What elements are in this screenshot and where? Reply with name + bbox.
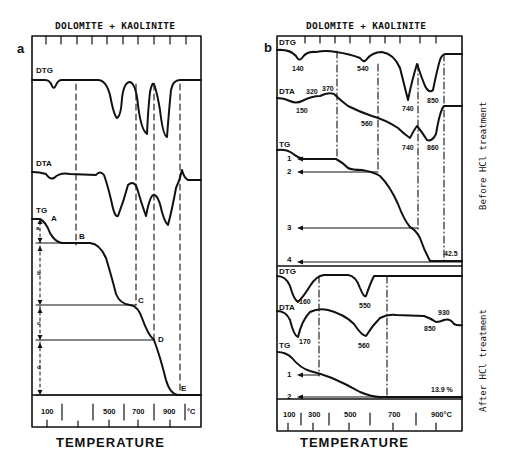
panel-b-before-dta-peak-320: 320 (306, 88, 318, 95)
panel-a-tg-reference-lines (36, 243, 201, 395)
panel-b-before-step-1: 1 (287, 155, 291, 163)
panel-b-after-value: 13.9 % (431, 386, 453, 393)
panel-a-tick-100: 100 (41, 407, 54, 416)
panel-a-xlabel: TEMPERATURE (56, 435, 165, 450)
panel-b-after-dta-peak-850: 850 (424, 325, 436, 332)
panel-b-before-dtg-peak-140: 140 (292, 65, 304, 72)
panel-b-before-step-2: 2 (287, 168, 291, 176)
panel-b-tick-900: 900°C (431, 410, 452, 419)
panel-b-before-dta-peak-150: 150 (296, 107, 308, 114)
panel-b-before-guides (337, 51, 444, 262)
panel-b-before-tg-curve (277, 150, 462, 261)
panel-b-after-step-1: 1 (287, 371, 291, 379)
panel-b-top-ticks (305, 36, 436, 43)
panel-b-before-step-3: 3 (287, 224, 291, 232)
panel-b-tick-300: 300 (308, 410, 321, 419)
panel-a-point-B: B (79, 233, 85, 241)
panel-b-letter: b (264, 40, 272, 55)
panel-b-after-dta-peak-930: 930 (438, 309, 450, 316)
panel-a-tick-unit: °C (187, 407, 195, 416)
panel-b-tick-500: 500 (344, 410, 357, 419)
panel-a-tg-label: TG (36, 207, 47, 215)
panel-b-after-dta-peak-560: 560 (358, 342, 370, 349)
panel-b-xlabel: TEMPERATURE (300, 435, 409, 450)
panel-a-dta-label: DTA (36, 160, 52, 168)
chart-canvas (0, 0, 511, 465)
panel-b-before-tg-label: TG (279, 141, 290, 149)
panel-b-before-dta-label: DTA (279, 88, 295, 96)
panel-b-frame (277, 36, 462, 431)
panel-b-after-tg-label: TG (279, 342, 290, 350)
panel-b-before-dtg-peak-740: 740 (402, 105, 414, 112)
panel-b-before-step-4: 4 (287, 256, 291, 264)
panel-a-tick-700: 700 (132, 407, 145, 416)
panel-b-before-dta-peak-860: 860 (427, 144, 439, 151)
panel-a-tick-500: 500 (103, 407, 116, 416)
panel-b-after-dta-curve (277, 309, 462, 337)
panel-a-frame (32, 36, 201, 427)
panel-a-dta-curve (32, 170, 201, 225)
panel-a-dtg-label: DTG (36, 67, 53, 75)
panel-a-tg-curve (32, 219, 201, 395)
panel-b-after-side-label: After HCl treatment (478, 309, 488, 412)
panel-a-segment-a: a (36, 225, 39, 231)
panel-b-before-dtg-label: DTG (279, 39, 296, 47)
panel-b-title: DOLOMITE + KAOLINITE (306, 20, 426, 31)
panel-a-letter: a (17, 41, 24, 56)
panel-a-point-D: D (158, 336, 164, 344)
panel-b-before-dta-peak-560: 560 (361, 120, 373, 127)
panel-b-before-dta-peak-370: 370 (322, 85, 334, 92)
panel-b-after-step-2: 2 (287, 393, 291, 401)
panel-a-dtg-curve (32, 80, 201, 137)
panel-b-before-dta-peak-740: 740 (402, 144, 414, 151)
panel-b-before-step-lines (301, 159, 462, 262)
panel-a-segment-c: c (37, 320, 40, 326)
panel-b-after-step-lines (301, 375, 380, 397)
panel-b-tick-700: 700 (388, 410, 401, 419)
panel-b-after-dta-peak-170: 170 (299, 338, 311, 345)
panel-a-segment-b: b (37, 270, 41, 276)
panel-a-point-C: C (138, 297, 144, 305)
panel-b-before-dtg-curve (277, 50, 462, 100)
panel-a-segment-d: d (37, 364, 41, 370)
panel-a-point-E: E (181, 385, 186, 393)
panel-b-tick-100: 100 (283, 410, 296, 419)
panel-b-after-arrowheads (297, 373, 303, 400)
panel-a-top-ticks (46, 36, 186, 44)
panel-b-after-dta-label: DTA (279, 304, 295, 312)
panel-b-before-value: 42.5 (444, 250, 458, 257)
panel-b-before-arrowheads (297, 157, 303, 265)
panel-b-after-guides (319, 276, 387, 397)
panel-b-after-dtg-peak-160: 160 (299, 298, 311, 305)
panel-a-point-A: A (51, 215, 57, 223)
panel-b-after-dtg-label: DTG (279, 268, 296, 276)
panel-b-before-dtg-peak-850: 850 (427, 97, 439, 104)
panel-b-after-dtg-peak-550: 550 (359, 302, 371, 309)
panel-b-before-side-label: Before HCl treatment (478, 102, 488, 210)
panel-b-before-dtg-peak-540: 540 (357, 65, 369, 72)
panel-a-tick-900: 900 (163, 407, 176, 416)
panel-a-title: DOLOMITE + KAOLINITE (55, 20, 175, 31)
